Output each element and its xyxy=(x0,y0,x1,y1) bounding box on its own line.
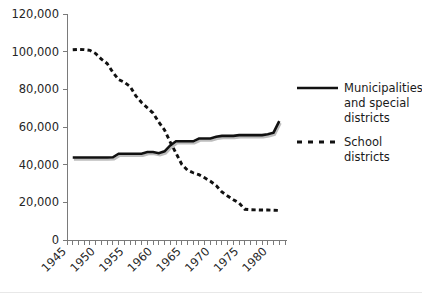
x-axis-tick-label: 1945 xyxy=(39,244,70,275)
line-chart: 020,00040,00060,00080,000100,000120,000 … xyxy=(0,0,422,293)
x-axis: 19451950195519601965197019751980 xyxy=(39,240,287,275)
chart-legend: Municipalitiesand specialdistrictsSchool… xyxy=(297,81,422,164)
x-axis-tick-label: 1955 xyxy=(96,244,127,275)
y-axis-tick-label: 20,000 xyxy=(19,195,59,209)
chart-container: 020,00040,00060,00080,000100,000120,000 … xyxy=(0,0,422,293)
x-axis-tick-label: 1975 xyxy=(211,244,242,275)
y-axis-tick-label: 120,000 xyxy=(11,7,59,21)
series-line-1 xyxy=(73,121,280,157)
y-axis-tick-label: 80,000 xyxy=(19,82,59,96)
y-axis-tick-label: 100,000 xyxy=(11,45,59,59)
legend-label-1: and special xyxy=(344,96,409,110)
legend-label-1: districts xyxy=(344,111,390,125)
x-axis-tick-label: 1950 xyxy=(67,244,98,275)
legend-label-2: School xyxy=(344,135,382,149)
x-axis-tick-label: 1965 xyxy=(153,244,184,275)
x-axis-tick-label: 1960 xyxy=(125,244,156,275)
data-series-group xyxy=(73,49,281,210)
y-axis-tick-label: 40,000 xyxy=(19,158,59,172)
y-axis-tick-label: 60,000 xyxy=(19,120,59,134)
x-axis-tick-label: 1980 xyxy=(239,244,270,275)
x-axis-tick-label: 1970 xyxy=(182,244,213,275)
y-axis: 020,00040,00060,00080,000100,000120,000 xyxy=(11,7,67,247)
legend-label-2: districts xyxy=(344,150,390,164)
series-line-2 xyxy=(73,49,280,210)
legend-label-1: Municipalities xyxy=(344,81,422,95)
